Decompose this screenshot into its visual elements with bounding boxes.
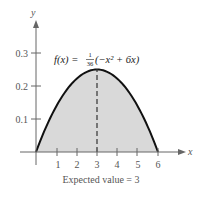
y-axis-arrow-icon <box>33 20 39 28</box>
svg-text:2: 2 <box>75 159 80 170</box>
svg-text:5: 5 <box>136 159 141 170</box>
svg-text:4: 4 <box>115 159 120 170</box>
svg-text:f(x) =: f(x) = <box>54 54 78 66</box>
function-label: f(x) = 1 36 (−x² + 6x) <box>54 51 140 67</box>
y-axis-label: y <box>30 7 36 18</box>
svg-text:36: 36 <box>87 60 94 67</box>
svg-text:(−x² + 6x): (−x² + 6x) <box>95 54 140 66</box>
svg-text:0.3: 0.3 <box>16 48 29 59</box>
y-tick-labels: 0.3 0.2 0.1 <box>16 48 29 125</box>
svg-text:0.2: 0.2 <box>16 81 29 92</box>
chart: x y 1 2 3 4 5 6 0.3 0.2 0.1 f(x) = 1 36 … <box>0 0 203 198</box>
svg-text:1: 1 <box>88 51 91 58</box>
svg-text:3: 3 <box>95 159 100 170</box>
x-axis-arrow-icon <box>178 149 186 155</box>
svg-text:1: 1 <box>56 159 61 170</box>
svg-text:0.1: 0.1 <box>16 114 29 125</box>
svg-text:6: 6 <box>156 159 161 170</box>
caption: Expected value = 3 <box>63 174 140 185</box>
x-axis-label: x <box>187 146 193 157</box>
x-tick-labels: 1 2 3 4 5 6 <box>56 159 161 170</box>
